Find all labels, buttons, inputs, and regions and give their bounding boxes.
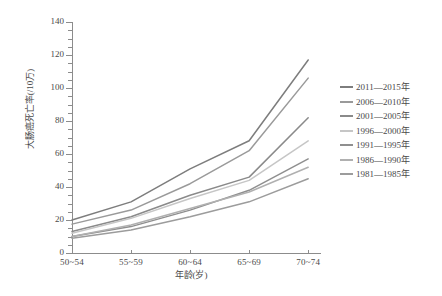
y-axis-title: 大肠癌死亡率(/10万)	[25, 49, 35, 169]
chart-legend: 2011—2015年2006—2010年2001—2005年1996—2000年…	[340, 80, 442, 182]
y-tick-major	[66, 55, 72, 56]
y-tick-minor	[68, 162, 72, 163]
x-tick-label: 70~74	[278, 257, 338, 267]
y-tick-major	[66, 88, 72, 89]
legend-item-label: 1981—1985年	[356, 169, 410, 179]
y-tick-label: 140	[4, 17, 64, 26]
x-tick-label: 65~69	[219, 257, 279, 267]
legend-line-icon	[340, 115, 353, 117]
legend-item[interactable]: 2011—2015年	[340, 80, 442, 95]
y-tick-minor	[68, 47, 72, 48]
x-tick-label: 55~59	[101, 257, 161, 267]
y-axis-line	[72, 22, 73, 253]
legend-line-icon	[340, 173, 353, 175]
legend-line-icon	[340, 101, 353, 103]
x-tick	[131, 250, 132, 254]
series-line	[72, 159, 308, 237]
legend-item[interactable]: 1981—1985年	[340, 167, 442, 182]
y-tick-minor	[68, 138, 72, 139]
x-tick	[72, 250, 73, 254]
legend-item-label: 2001—2005年	[356, 111, 410, 121]
series-line	[72, 118, 308, 232]
y-tick-major	[66, 154, 72, 155]
y-tick-minor	[68, 39, 72, 40]
x-tick-label: 60~64	[160, 257, 220, 267]
legend-item[interactable]: 1991—1995年	[340, 138, 442, 153]
x-axis-title: 年龄(岁)	[161, 270, 221, 280]
y-tick-minor	[68, 72, 72, 73]
y-tick-major	[66, 187, 72, 188]
y-tick-major	[66, 121, 72, 122]
y-tick-minor	[68, 105, 72, 106]
y-tick-minor	[68, 204, 72, 205]
y-tick-minor	[68, 146, 72, 147]
y-tick-minor	[68, 179, 72, 180]
x-tick	[249, 250, 250, 254]
x-tick-label: 50~54	[42, 257, 102, 267]
legend-item[interactable]: 2006—2010年	[340, 95, 442, 110]
series-line	[72, 78, 308, 224]
y-tick-minor	[68, 212, 72, 213]
legend-item[interactable]: 1986—1990年	[340, 153, 442, 168]
y-tick-minor	[68, 80, 72, 81]
legend-item[interactable]: 1996—2000年	[340, 124, 442, 139]
y-tick-minor	[68, 245, 72, 246]
y-tick-minor	[68, 30, 72, 31]
line-chart: 020406080100120140 50~5455~5960~6465~697…	[0, 0, 442, 296]
legend-line-icon	[340, 130, 353, 132]
legend-line-icon	[340, 159, 353, 161]
series-line	[72, 60, 308, 220]
y-tick-minor	[68, 195, 72, 196]
legend-item-label: 2011—2015年	[356, 82, 410, 92]
y-tick-minor	[68, 228, 72, 229]
legend-item-label: 1986—1990年	[356, 155, 410, 165]
y-tick-label: 0	[4, 248, 64, 257]
legend-line-icon	[340, 86, 353, 88]
y-tick-major	[66, 220, 72, 221]
y-tick-minor	[68, 96, 72, 97]
series-line	[72, 141, 308, 233]
y-tick-minor	[68, 63, 72, 64]
series-line	[72, 167, 308, 236]
y-tick-minor	[68, 129, 72, 130]
series-line	[72, 179, 308, 238]
legend-item-label: 1996—2000年	[356, 126, 410, 136]
y-tick-minor	[68, 113, 72, 114]
legend-item[interactable]: 2001—2005年	[340, 109, 442, 124]
legend-item-label: 1991—1995年	[356, 140, 410, 150]
legend-item-label: 2006—2010年	[356, 97, 410, 107]
y-tick-label: 40	[4, 182, 64, 191]
y-tick-minor	[68, 237, 72, 238]
x-axis-line	[72, 253, 321, 254]
y-tick-minor	[68, 171, 72, 172]
y-tick-major	[66, 22, 72, 23]
legend-line-icon	[340, 144, 353, 146]
x-tick	[190, 250, 191, 254]
y-tick-label: 20	[4, 215, 64, 224]
x-tick	[308, 250, 309, 254]
